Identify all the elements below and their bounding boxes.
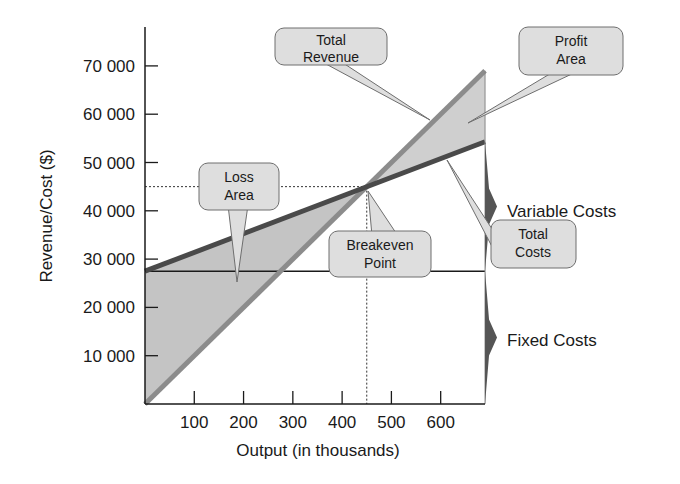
svg-text:Point: Point [364,255,396,271]
y-tick-label: 10 000 [83,347,135,366]
fixed-costs-label: Fixed Costs [507,331,597,350]
y-tick-label: 60 000 [83,105,135,124]
y-axis-title: Revenue/Cost ($) [37,149,56,282]
y-tick-label: 50 000 [83,154,135,173]
y-tick-label: 30 000 [83,250,135,269]
y-tick-label: 70 000 [83,57,135,76]
total-revenue-line [145,71,485,404]
x-tick-label: 400 [328,413,356,432]
x-axis-title: Output (in thousands) [236,441,399,460]
variable-costs-label: Variable Costs [507,202,616,221]
svg-text:Area: Area [224,187,254,203]
svg-text:Revenue: Revenue [303,49,359,65]
x-tick-label: 200 [229,413,257,432]
svg-text:Costs: Costs [515,244,551,260]
callout-total-revenue: Total Revenue [275,28,430,120]
x-ticks: 100200300400500600 [180,391,455,432]
x-tick-label: 300 [279,413,307,432]
x-tick-label: 100 [180,413,208,432]
series-lines [145,71,485,404]
brace-icon [485,271,497,404]
y-tick-label: 20 000 [83,298,135,317]
x-tick-label: 500 [377,413,405,432]
svg-text:Total: Total [316,32,346,48]
x-tick-label: 600 [426,413,454,432]
fixed-costs-brace [485,271,497,404]
svg-text:Area: Area [556,51,586,67]
svg-text:Total: Total [518,226,548,242]
total-costs-line [145,142,485,271]
svg-text:Loss: Loss [224,169,254,185]
svg-text:Breakeven: Breakeven [347,237,414,253]
callout-profit-area: Profit Area [468,27,623,123]
breakeven-chart: 10 00020 00030 00040 00050 00060 00070 0… [0,0,680,484]
y-tick-label: 40 000 [83,202,135,221]
svg-text:Profit: Profit [555,33,588,49]
